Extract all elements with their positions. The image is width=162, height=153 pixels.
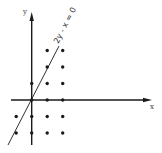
lattice-point	[30, 82, 33, 85]
lattice-points	[15, 49, 65, 135]
lattice-point	[46, 131, 49, 134]
lattice-point	[61, 65, 64, 68]
lattice-point	[15, 115, 18, 118]
lattice-point	[46, 49, 49, 52]
lattice-point	[61, 115, 64, 118]
lattice-point	[61, 49, 64, 52]
lattice-point	[46, 98, 49, 101]
lattice-point	[61, 82, 64, 85]
y-axis-label: y	[23, 8, 27, 16]
lattice-point	[15, 131, 18, 134]
lattice-point	[30, 115, 33, 118]
lattice-point	[46, 82, 49, 85]
lattice-diagram	[0, 0, 162, 153]
lattice-point	[46, 65, 49, 68]
lattice-point	[30, 98, 33, 101]
lattice-point	[46, 115, 49, 118]
lattice-point	[61, 98, 64, 101]
axes	[11, 12, 152, 145]
lattice-point	[30, 131, 33, 134]
diagonal-line	[8, 46, 59, 145]
x-axis-arrow-icon	[143, 98, 152, 102]
line-2y-minus-x	[8, 46, 59, 145]
x-axis-label: x	[150, 103, 154, 111]
lattice-point	[61, 131, 64, 134]
y-axis-arrow-icon	[30, 12, 34, 21]
